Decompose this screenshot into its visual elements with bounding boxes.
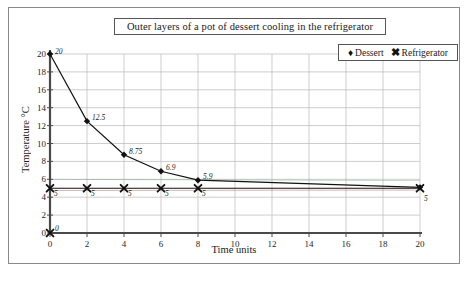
x-tick-label: 6 <box>159 239 164 249</box>
chart-frame: Outer layers of a pot of dessert cooling… <box>8 7 460 264</box>
y-tick-label: 0 <box>26 228 46 238</box>
x-tick-label: 16 <box>342 239 351 249</box>
data-point-label-dessert: 6.9 <box>166 163 175 172</box>
x-tick-label: 20 <box>416 239 425 249</box>
y-tick-label: 4 <box>26 192 46 202</box>
data-point-label-dessert: 8.75 <box>129 147 142 156</box>
x-tick-label: 2 <box>85 239 90 249</box>
x-tick-label: 4 <box>122 239 127 249</box>
data-point-label-dessert: 5.9 <box>203 172 212 181</box>
y-tick-label: 6 <box>26 174 46 184</box>
data-point-label-refrigerator: 5 <box>424 194 428 203</box>
diamond-marker-icon: ♦ <box>348 48 353 58</box>
data-point-label-refrigerator: 5 <box>54 189 58 198</box>
y-tick-label: 14 <box>26 103 46 113</box>
legend-label-dessert: Dessert <box>355 48 384 58</box>
data-point-label-refrigerator: 5 <box>202 189 206 198</box>
legend-entry-dessert: ♦ Dessert <box>348 48 384 58</box>
x-tick-label: 0 <box>48 239 53 249</box>
data-point-label-dessert: 20 <box>55 47 63 56</box>
legend-label-refrigerator: Refrigerator <box>402 48 448 58</box>
y-tick-label: 8 <box>26 156 46 166</box>
y-tick-label: 2 <box>26 210 46 220</box>
data-point-label-refrigerator: 5 <box>91 189 95 198</box>
y-tick-label: 10 <box>26 139 46 149</box>
chart-legend: ♦ Dessert ✖ Refrigerator <box>338 44 458 61</box>
x-tick-label: 8 <box>196 239 201 249</box>
x-tick-label: 12 <box>268 239 277 249</box>
data-point-label-refrigerator: 5 <box>128 189 132 198</box>
legend-entry-refrigerator: ✖ Refrigerator <box>391 47 448 58</box>
y-tick-label: 12 <box>26 121 46 131</box>
data-point-label-origin: 0 <box>55 224 59 233</box>
cross-marker-icon: ✖ <box>391 47 400 58</box>
data-point-label-dessert: 12.5 <box>92 113 105 122</box>
y-tick-label: 16 <box>26 85 46 95</box>
x-tick-label: 14 <box>305 239 314 249</box>
y-tick-label: 18 <box>26 67 46 77</box>
x-tick-label: 10 <box>231 239 240 249</box>
x-tick-label: 18 <box>379 239 388 249</box>
data-point-label-refrigerator: 5 <box>165 189 169 198</box>
y-tick-label: 20 <box>26 49 46 59</box>
